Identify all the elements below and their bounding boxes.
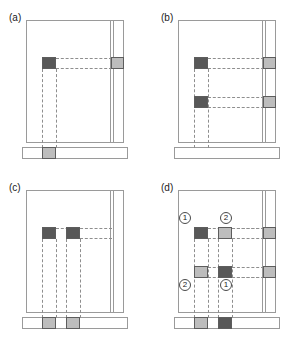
panel-d-rail-block-1	[263, 227, 276, 239]
panel-b-label: (b)	[161, 12, 173, 24]
panel-d: (d) 1221	[152, 170, 303, 340]
panel-b-guide-h-1	[208, 58, 264, 59]
panel-b-rail	[262, 20, 276, 143]
panel-b-rail-block-1	[263, 57, 276, 69]
panel-a-rail	[110, 20, 124, 143]
panel-c-bottom-bar-block-1	[42, 317, 56, 329]
panel-c-rail	[110, 190, 124, 313]
panel-a-bottom-bar-block-1	[42, 147, 56, 159]
panel-b-bottom-bar	[174, 147, 280, 159]
panel-d-rail-inner-line	[265, 190, 266, 313]
panel-d-rail-block-2	[263, 266, 276, 278]
panel-d-interior-block-4	[218, 266, 232, 278]
panel-c-bottom-bar-block-2	[66, 317, 80, 329]
panel-d-marker-bottom-left: 2	[179, 279, 191, 291]
panel-a-guide-v-1	[42, 69, 43, 148]
panel-a-rail-block-1	[111, 57, 124, 69]
panel-b-interior-block-1	[194, 57, 208, 69]
panel-c-guide-h-2	[80, 238, 112, 239]
panel-c-label: (c)	[9, 182, 21, 194]
panel-d-guide-v-2	[208, 239, 209, 318]
panel-b-guide-h-2	[208, 68, 264, 69]
panel-a: (a)	[0, 0, 151, 170]
panel-d-interior-block-1	[194, 227, 208, 239]
panel-c-rail-inner-line	[113, 190, 114, 313]
panel-d-guide-h-2	[208, 238, 264, 239]
panel-c-guide-v-1	[42, 239, 43, 318]
figure-root: (a) (b) (c) (d) 1221	[0, 0, 303, 340]
panel-b-guide-h-4	[208, 107, 264, 108]
panel-a-guide-v-2	[56, 69, 57, 148]
panel-a-bottom-bar	[22, 147, 128, 159]
panel-d-marker-bottom-right: 1	[220, 279, 232, 291]
panel-c-guide-v-3	[66, 239, 67, 318]
panel-d-label: (d)	[161, 182, 173, 194]
panel-d-guide-v-3	[218, 239, 219, 318]
panel-d-interior-block-2	[218, 227, 232, 239]
panel-d-guide-v-1	[194, 239, 195, 318]
panel-d-bottom-bar-block-2	[218, 317, 232, 329]
panel-d-guide-v-4	[232, 239, 233, 318]
panel-d-guide-h-4	[208, 267, 264, 268]
panel-c: (c)	[0, 170, 151, 340]
panel-b-interior-block-2	[194, 96, 208, 108]
panel-d-guide-h-6	[232, 277, 264, 278]
panel-a-guide-h-2	[56, 68, 112, 69]
panel-a-label: (a)	[9, 12, 21, 24]
panel-a-interior-block-1	[42, 57, 56, 69]
panel-d-bottom-bar-block-1	[194, 317, 208, 329]
panel-c-guide-v-2	[56, 239, 57, 318]
panel-c-guide-h-1	[56, 228, 112, 229]
panel-d-marker-top-right: 2	[220, 212, 232, 224]
panel-b-guide-v-2	[208, 69, 209, 148]
panel-d-guide-h-3	[232, 228, 264, 229]
panel-b-main-box	[178, 20, 270, 143]
panel-b: (b)	[152, 0, 303, 170]
panel-b-guide-h-3	[208, 97, 264, 98]
panel-a-guide-h-1	[56, 58, 112, 59]
panel-c-interior-block-2	[66, 227, 80, 239]
panel-d-main-box	[178, 190, 270, 313]
panel-c-main-box	[26, 190, 118, 313]
panel-c-interior-block-1	[42, 227, 56, 239]
panel-d-rail	[262, 190, 276, 313]
panel-b-rail-inner-line	[265, 20, 266, 143]
panel-c-guide-v-4	[80, 239, 81, 318]
panel-b-rail-block-2	[263, 96, 276, 108]
panel-d-interior-block-3	[194, 266, 208, 278]
panel-a-rail-inner-line	[113, 20, 114, 143]
panel-d-marker-top-left: 1	[179, 212, 191, 224]
panel-a-main-box	[26, 20, 118, 143]
panel-b-guide-v-1	[194, 69, 195, 148]
